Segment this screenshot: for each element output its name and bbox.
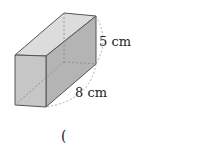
prism-diagram [0,0,198,152]
answer-paren: ( [61,129,66,143]
front-face [15,55,46,107]
height-label: 5 cm [99,35,131,48]
length-label: 8 cm [75,86,107,99]
